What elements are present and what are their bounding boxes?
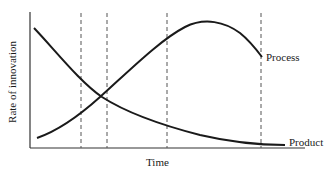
process-label: Process xyxy=(266,51,300,63)
product-curve xyxy=(34,28,285,145)
product-label: Product xyxy=(289,136,323,148)
x-axis-label: Time xyxy=(146,156,169,168)
y-axis-label: Rate of innovation xyxy=(6,32,18,132)
innovation-chart xyxy=(0,0,333,177)
